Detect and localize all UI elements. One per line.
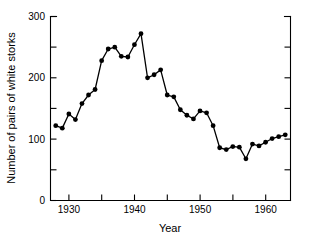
data-point [184, 113, 189, 118]
data-point [158, 67, 163, 72]
data-point [283, 132, 288, 137]
y-axis-ticks [51, 17, 57, 201]
data-point [152, 72, 157, 77]
data-point [86, 93, 91, 98]
data-point [217, 145, 222, 150]
x-tick-label-1930: 1930 [58, 204, 81, 215]
x-tick-label-1950: 1950 [189, 204, 212, 215]
axis-spine-left-bottom [51, 17, 291, 201]
y-axis-ticks-right [285, 47, 291, 170]
y-tick-label-100: 100 [28, 134, 45, 145]
chart-figure: 300 200 100 0 1930 1940 1950 1960 Number… [0, 0, 313, 240]
x-axis-title: Year [159, 222, 182, 234]
data-point [198, 109, 203, 114]
data-point [80, 101, 85, 106]
data-point [178, 107, 183, 112]
data-point [119, 54, 124, 59]
y-tick-label-200: 200 [28, 72, 45, 83]
data-point [99, 58, 104, 63]
data-point [53, 123, 58, 128]
data-point [257, 144, 262, 149]
data-point [60, 126, 65, 131]
data-point [276, 134, 281, 139]
data-point [244, 156, 249, 161]
data-point [145, 75, 150, 80]
data-point [125, 55, 130, 60]
y-axis-title: Number of pairs of white storks [5, 32, 17, 184]
data-point [66, 112, 71, 117]
data-point [224, 147, 229, 152]
y-tick-label-0: 0 [39, 195, 45, 206]
data-point [106, 47, 111, 52]
data-point [139, 31, 144, 36]
data-point [132, 42, 137, 47]
data-point [191, 117, 196, 122]
line-chart: 300 200 100 0 1930 1940 1950 1960 Number… [0, 0, 313, 240]
data-point [112, 45, 117, 50]
data-point [237, 145, 242, 150]
y-tick-label-300: 300 [28, 11, 45, 22]
x-tick-label-1960: 1960 [255, 204, 278, 215]
data-point [171, 94, 176, 99]
data-point [165, 93, 170, 98]
x-tick-label-1940: 1940 [123, 204, 146, 215]
data-point [73, 117, 78, 122]
data-point [263, 140, 268, 145]
data-point [204, 110, 209, 115]
data-point [250, 142, 255, 147]
data-point [270, 136, 275, 141]
data-point [211, 123, 216, 128]
data-point [93, 87, 98, 92]
data-point [230, 144, 235, 149]
x-axis-ticks [69, 195, 266, 201]
